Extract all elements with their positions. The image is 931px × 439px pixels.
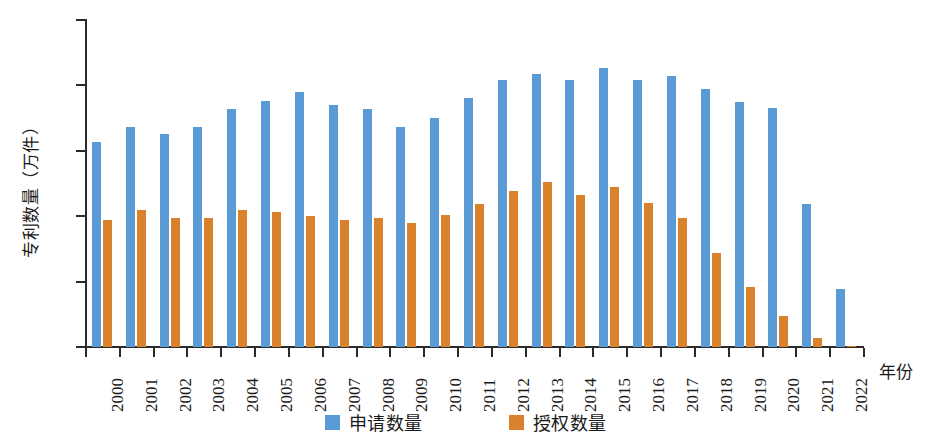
bar-申请数量-2014: [565, 80, 574, 347]
y-axis-tick-mark: [76, 346, 85, 348]
bar-申请数量-2011: [464, 98, 473, 347]
y-axis-title: 专利数量（万件）: [17, 43, 42, 333]
bar-申请数量-2009: [396, 127, 405, 347]
legend-label: 授权数量: [533, 409, 607, 435]
x-axis-category-label: 2013: [549, 352, 566, 412]
bar-授权数量-2014: [576, 195, 585, 347]
legend-item-授权数量[interactable]: 授权数量: [509, 409, 607, 435]
x-axis-category-label: 2007: [346, 352, 363, 412]
bar-申请数量-2015: [599, 68, 608, 347]
bar-申请数量-2019: [735, 102, 744, 347]
bar-申请数量-2002: [160, 134, 169, 347]
bars-layer: [85, 20, 863, 347]
bar-授权数量-2000: [103, 220, 112, 347]
x-axis-category-label: 2010: [447, 352, 464, 412]
bar-申请数量-2022: [836, 289, 845, 347]
bar-授权数量-2005: [272, 212, 281, 347]
x-axis-category-label: 2015: [616, 352, 633, 412]
bar-授权数量-2004: [238, 210, 247, 347]
bar-申请数量-2021: [802, 204, 811, 347]
bar-申请数量-2003: [193, 127, 202, 347]
bar-申请数量-2012: [498, 80, 507, 347]
x-axis-category-labels: 2000200120022003200420052006200720082009…: [85, 357, 863, 417]
bar-授权数量-2022: [847, 346, 856, 347]
bar-授权数量-2006: [306, 216, 315, 347]
bar-授权数量-2003: [204, 218, 213, 347]
bar-申请数量-2016: [633, 80, 642, 347]
x-axis-category-label: 2004: [244, 352, 261, 412]
bar-申请数量-2010: [430, 118, 439, 347]
x-axis-category-label: 2022: [853, 352, 870, 412]
bar-授权数量-2011: [475, 204, 484, 347]
bar-授权数量-2007: [340, 220, 349, 347]
y-axis-tick-mark: [76, 281, 85, 283]
bar-授权数量-2019: [746, 287, 755, 347]
bar-授权数量-2016: [644, 203, 653, 347]
y-axis-tick-mark: [76, 215, 85, 217]
bar-申请数量-2000: [92, 142, 101, 347]
bar-申请数量-2017: [667, 76, 676, 347]
bar-授权数量-2001: [137, 210, 146, 347]
x-axis-category-label: 2016: [650, 352, 667, 412]
legend-swatch-icon: [325, 415, 340, 430]
bar-申请数量-2013: [532, 74, 541, 347]
bar-授权数量-2009: [407, 223, 416, 347]
y-axis-tick-mark: [76, 150, 85, 152]
x-axis-category-label: 2018: [718, 352, 735, 412]
bar-申请数量-2001: [126, 127, 135, 347]
y-axis-tick-mark: [76, 84, 85, 86]
x-axis-category-label: 2001: [143, 352, 160, 412]
x-axis-category-label: 2002: [177, 352, 194, 412]
bar-授权数量-2008: [374, 218, 383, 347]
bar-授权数量-2020: [779, 316, 788, 347]
bar-授权数量-2013: [543, 182, 552, 347]
x-axis-category-label: 2019: [752, 352, 769, 412]
bar-授权数量-2012: [509, 191, 518, 347]
legend-label: 申请数量: [349, 409, 423, 435]
bar-授权数量-2018: [712, 253, 721, 347]
x-axis-category-label: 2014: [582, 352, 599, 412]
bar-申请数量-2008: [363, 109, 372, 347]
x-axis-category-label: 2020: [785, 352, 802, 412]
x-axis-category-label: 2008: [380, 352, 397, 412]
bar-授权数量-2010: [441, 215, 450, 347]
legend-item-申请数量[interactable]: 申请数量: [325, 409, 423, 435]
bar-授权数量-2002: [171, 218, 180, 347]
bar-申请数量-2004: [227, 109, 236, 347]
bar-申请数量-2007: [329, 105, 338, 347]
x-axis-category-label: 2017: [684, 352, 701, 412]
x-axis-category-label: 2006: [312, 352, 329, 412]
legend-swatch-icon: [509, 415, 524, 430]
bar-授权数量-2015: [610, 187, 619, 347]
x-axis-category-label: 2012: [515, 352, 532, 412]
x-axis-category-label: 2011: [481, 352, 498, 412]
x-axis-category-label: 2021: [819, 352, 836, 412]
bar-授权数量-2017: [678, 218, 687, 347]
bar-申请数量-2006: [295, 92, 304, 347]
bar-授权数量-2021: [813, 338, 822, 347]
bar-申请数量-2018: [701, 89, 710, 347]
patent-bar-chart: 专利数量（万件） 00.51.01.52.02.5 20002001200220…: [0, 0, 931, 439]
x-axis-category-label: 2005: [278, 352, 295, 412]
x-axis-tick-mark: [85, 348, 87, 357]
bar-申请数量-2020: [768, 108, 777, 347]
x-axis-title: 年份: [879, 358, 913, 383]
x-axis-category-label: 2003: [210, 352, 227, 412]
bar-申请数量-2005: [261, 101, 270, 347]
x-axis-category-label: 2009: [413, 352, 430, 412]
y-axis-tick-mark: [76, 19, 85, 21]
x-axis-category-label: 2000: [109, 352, 126, 412]
chart-legend: 申请数量授权数量: [0, 409, 931, 435]
